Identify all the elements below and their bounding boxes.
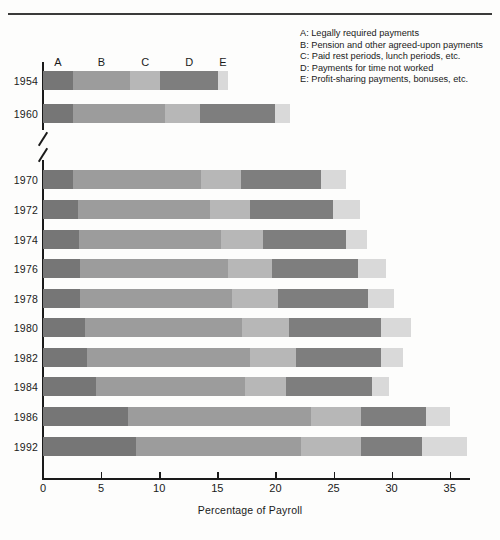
bar-segment-a — [43, 348, 87, 367]
bar-row — [43, 318, 411, 337]
column-letter-c: C — [141, 56, 149, 68]
bar-segment-b — [85, 318, 242, 337]
x-tick-35 — [450, 472, 451, 478]
legend-item-c: C: Paid rest periods, lunch periods, etc… — [300, 51, 496, 63]
legend-item-a: A: Legally required payments — [300, 28, 496, 40]
x-tick-label-25: 25 — [327, 482, 339, 494]
year-label-1986: 1986 — [0, 411, 38, 423]
bar-segment-d — [272, 259, 358, 278]
bar-segment-e — [218, 71, 227, 90]
year-label-text: 1972 — [4, 204, 38, 216]
bar-row — [43, 170, 346, 189]
legend-item-d: D: Payments for time not worked — [300, 63, 496, 75]
bar-segment-e — [346, 230, 367, 249]
year-label-1974: 1974 — [0, 234, 38, 246]
bar-segment-c — [201, 170, 241, 189]
legend-label-e: Profit-sharing payments, bonuses, etc. — [311, 74, 468, 84]
bar-segment-b — [136, 437, 301, 456]
axis-break-slash-upper — [38, 132, 48, 147]
bar-segment-d — [241, 170, 321, 189]
bar-segment-c — [232, 289, 277, 308]
bar-segment-b — [87, 348, 250, 367]
bar-segment-a — [43, 259, 80, 278]
bar-segment-a — [43, 289, 80, 308]
bar-segment-e — [358, 259, 386, 278]
year-label-text: 1986 — [4, 411, 38, 423]
bar-segment-e — [381, 348, 403, 367]
year-label-text: 1954 — [4, 75, 38, 87]
bar-segment-c — [210, 200, 250, 219]
column-letter-e: E — [219, 56, 227, 68]
x-tick-label-30: 30 — [385, 482, 397, 494]
bar-segment-e — [333, 200, 360, 219]
legend-label-c: Paid rest periods, lunch periods, etc. — [312, 51, 461, 61]
bar-row — [43, 259, 386, 278]
bar-segment-a — [43, 377, 96, 396]
chart-page: ABCDE 1954196019701972197419761978198019… — [0, 0, 500, 540]
year-label-text: 1978 — [4, 293, 38, 305]
x-tick-15 — [217, 472, 218, 478]
x-tick-30 — [392, 472, 393, 478]
x-tick-0 — [43, 472, 44, 478]
bar-row — [43, 230, 367, 249]
legend-key-a: A: — [300, 28, 309, 40]
bar-segment-d — [200, 104, 276, 123]
bar-segment-d — [361, 407, 426, 426]
x-tick-label-15: 15 — [211, 482, 223, 494]
bar-row — [43, 437, 467, 456]
legend-label-a: Legally required payments — [311, 28, 419, 38]
bar-segment-c — [130, 71, 160, 90]
bar-segment-a — [43, 407, 128, 426]
legend-key-b: B: — [300, 40, 309, 52]
column-letter-d: D — [185, 56, 193, 68]
year-label-text: 1970 — [4, 174, 38, 186]
bar-segment-d — [250, 200, 334, 219]
bar-segment-a — [43, 71, 73, 90]
legend-item-b: B: Pension and other agreed-upon payment… — [300, 40, 496, 52]
bar-segment-e — [372, 377, 389, 396]
bar-row — [43, 71, 228, 90]
legend-label-b: Pension and other agreed-upon payments — [311, 40, 483, 50]
bar-segment-d — [160, 71, 218, 90]
x-tick-label-5: 5 — [98, 482, 104, 494]
legend-item-e: E: Profit-sharing payments, bonuses, etc… — [300, 74, 496, 86]
year-label-1982: 1982 — [0, 352, 38, 364]
bar-segment-b — [96, 377, 245, 396]
bar-segment-e — [422, 437, 467, 456]
bar-segment-c — [311, 407, 361, 426]
bar-segment-c — [245, 377, 286, 396]
bar-segment-a — [43, 200, 78, 219]
x-tick-label-0: 0 — [40, 482, 46, 494]
year-label-1980: 1980 — [0, 322, 38, 334]
x-tick-10 — [159, 472, 160, 478]
bar-segment-c — [228, 259, 272, 278]
legend-label-d: Payments for time not worked — [312, 63, 434, 73]
year-label-1992: 1992 — [0, 441, 38, 453]
year-label-text: 1992 — [4, 441, 38, 453]
year-label-1976: 1976 — [0, 263, 38, 275]
year-label-1972: 1972 — [0, 204, 38, 216]
bar-row — [43, 407, 450, 426]
bar-row — [43, 200, 360, 219]
x-tick-label-10: 10 — [153, 482, 165, 494]
bar-segment-c — [242, 318, 290, 337]
bar-segment-e — [426, 407, 449, 426]
bar-segment-d — [263, 230, 347, 249]
year-label-1954: 1954 — [0, 75, 38, 87]
bar-segment-a — [43, 437, 136, 456]
x-tick-label-35: 35 — [444, 482, 456, 494]
bar-segment-c — [165, 104, 200, 123]
bar-segment-c — [301, 437, 361, 456]
bar-segment-b — [73, 104, 165, 123]
legend-key-d: D: — [300, 63, 309, 75]
bar-segment-b — [79, 230, 221, 249]
year-label-text: 1980 — [4, 322, 38, 334]
year-label-1960: 1960 — [0, 108, 38, 120]
bar-segment-b — [73, 170, 201, 189]
year-label-1984: 1984 — [0, 381, 38, 393]
bar-segment-d — [289, 318, 381, 337]
bar-row — [43, 348, 403, 367]
bar-segment-b — [80, 289, 232, 308]
bar-row — [43, 377, 389, 396]
x-tick-20 — [275, 472, 276, 478]
